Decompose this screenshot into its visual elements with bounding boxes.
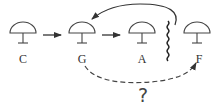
diagram-canvas xyxy=(0,0,217,108)
wavy-barrier-line xyxy=(167,21,169,61)
umbrella-icon-g xyxy=(69,22,95,43)
node-label-f: F xyxy=(196,53,203,65)
node-label-c: C xyxy=(19,53,27,65)
node-label-a: A xyxy=(138,53,147,65)
umbrella-icon-a xyxy=(129,22,155,43)
umbrella-icon-f xyxy=(184,22,210,43)
umbrella-icon-c xyxy=(10,22,36,43)
question-mark: ? xyxy=(138,86,148,105)
node-label-g: G xyxy=(78,53,87,65)
arrow-barrier-to-g xyxy=(92,4,176,25)
